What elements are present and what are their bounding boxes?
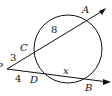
label-a: A: [81, 4, 89, 15]
arrowhead-b-icon: [103, 79, 111, 85]
label-c: C: [20, 42, 28, 53]
label-p: P: [0, 61, 3, 72]
segment-db-length: x: [63, 65, 69, 76]
secant-pca: [7, 10, 104, 69]
secant-secant-diagram: A C D B P 8 3 4 x: [0, 0, 112, 96]
segment-ca-length: 8: [51, 24, 57, 35]
label-b: B: [84, 82, 92, 93]
segment-pd-length: 4: [15, 73, 21, 84]
segment-pc-length: 3: [10, 52, 16, 63]
secant-pdb: [7, 69, 108, 82]
arrowhead-a-icon: [99, 8, 106, 15]
label-d: D: [29, 74, 38, 85]
